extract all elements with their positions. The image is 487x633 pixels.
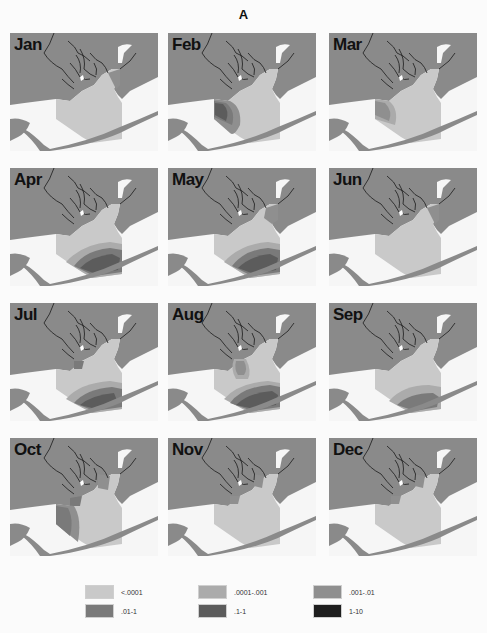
map-panel-sep: Sep — [329, 303, 477, 421]
legend-swatch — [85, 585, 114, 599]
legend-swatch — [85, 604, 114, 618]
legend-label: <.0001 — [121, 589, 143, 596]
legend-item: .0001-.001 — [198, 585, 267, 599]
legend-label: .01-1 — [121, 608, 137, 615]
legend-item: 1-10 — [313, 604, 363, 618]
figure-title: A — [0, 7, 487, 22]
map-panel-nov: Nov — [168, 438, 316, 556]
legend-item: .1-1 — [198, 604, 246, 618]
map-panel-aug: Aug — [168, 303, 316, 421]
map-panel-dec: Dec — [329, 438, 477, 556]
map-panel-jan: Jan — [10, 33, 158, 151]
legend-swatch — [198, 604, 227, 618]
legend-label: .0001-.001 — [234, 589, 267, 596]
map-panel-apr: Apr — [10, 168, 158, 286]
map-panel-jul: Jul — [10, 303, 158, 421]
legend-label: .1-1 — [234, 608, 246, 615]
map-panel-jun: Jun — [329, 168, 477, 286]
map-panel-mar: Mar — [329, 33, 477, 151]
legend-item: .01-1 — [85, 604, 137, 618]
map-panel-may: May — [168, 168, 316, 286]
legend-swatch — [313, 585, 342, 599]
legend-label: 1-10 — [349, 608, 363, 615]
legend-item: .001-.01 — [313, 585, 375, 599]
legend-swatch — [313, 604, 342, 618]
legend-item: <.0001 — [85, 585, 143, 599]
legend-label: .001-.01 — [349, 589, 375, 596]
legend-swatch — [198, 585, 227, 599]
legend: <.0001 .0001-.001 .001-.01 .01-1 .1-1 1-… — [0, 578, 487, 618]
map-panel-oct: Oct — [10, 438, 158, 556]
map-panel-feb: Feb — [168, 33, 316, 151]
